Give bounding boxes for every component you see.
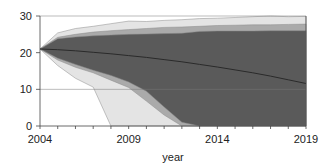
x-tick-label: 2019 [294, 133, 318, 145]
x-tick-label: 2004 [28, 133, 52, 145]
y-tick-label: 0 [26, 120, 32, 132]
y-tick-label: 20 [20, 47, 32, 59]
x-axis-title: year [162, 151, 184, 163]
fan-chart: 01020302004200920142019 year [0, 0, 335, 167]
y-tick-label: 10 [20, 83, 32, 95]
x-tick-label: 2009 [116, 133, 140, 145]
y-tick-label: 30 [20, 10, 32, 22]
chart-bands [40, 16, 306, 126]
x-tick-label: 2014 [205, 133, 229, 145]
